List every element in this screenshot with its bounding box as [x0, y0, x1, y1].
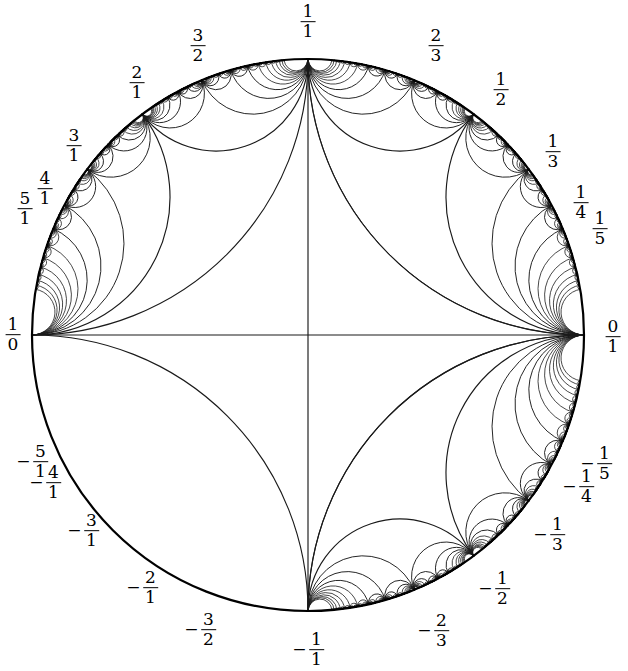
- fraction-numerator: 0: [606, 318, 621, 336]
- fraction-denominator: 1: [143, 588, 158, 607]
- fraction-numerator: 3: [201, 611, 216, 629]
- fraction-denominator: 1: [46, 483, 61, 502]
- fraction-numerator: 1: [301, 3, 316, 21]
- label-neg-3-over-1: −31: [67, 512, 99, 550]
- label-neg-3-over-2: −32: [184, 611, 216, 649]
- geodesic-arc: [529, 335, 584, 441]
- fraction-denominator: 3: [550, 535, 565, 554]
- farey-diagram-canvas: [0, 0, 628, 671]
- fraction: 31: [67, 127, 82, 165]
- fraction: 32: [191, 27, 206, 65]
- minus-sign: −: [184, 621, 198, 638]
- fraction-denominator: 1: [18, 209, 33, 228]
- fraction-denominator: 1: [67, 146, 82, 165]
- fraction-numerator: 1: [494, 71, 509, 89]
- fraction-denominator: 3: [546, 152, 561, 171]
- fraction: 21: [130, 64, 145, 102]
- fraction-numerator: 5: [18, 190, 33, 208]
- fraction-numerator: 4: [38, 170, 53, 188]
- fraction-denominator: 1: [84, 531, 99, 550]
- fraction-denominator: 4: [579, 487, 594, 506]
- minus-sign: −: [126, 579, 140, 596]
- fraction-denominator: 1: [301, 22, 316, 41]
- geodesic-arc: [32, 335, 308, 611]
- geodesic-arc: [469, 519, 508, 556]
- label-1-over-0: 10: [6, 316, 21, 354]
- fraction-denominator: 3: [434, 631, 449, 650]
- fraction-numerator: 3: [67, 127, 82, 145]
- fraction: 23: [429, 27, 444, 65]
- fraction-denominator: 4: [574, 203, 589, 222]
- fraction-denominator: 1: [38, 189, 53, 208]
- fraction-denominator: 5: [593, 229, 608, 248]
- geodesic-arc: [469, 114, 508, 151]
- fraction: 51: [18, 190, 33, 228]
- fraction-numerator: 1: [597, 445, 612, 463]
- minus-sign: −: [292, 641, 306, 658]
- fraction: 32: [201, 611, 216, 649]
- geodesic-arc: [131, 114, 144, 126]
- fraction-numerator: 1: [309, 631, 324, 649]
- label-5-over-1: 51: [18, 190, 33, 228]
- geodesic-arc: [472, 114, 485, 126]
- label-1-over-3: 13: [546, 133, 561, 171]
- geodesic-arc: [529, 229, 584, 335]
- fraction-numerator: 1: [546, 133, 561, 151]
- label-2-over-3: 23: [429, 27, 444, 65]
- fraction: 23: [434, 612, 449, 650]
- fraction: 13: [550, 516, 565, 554]
- fraction: 41: [46, 464, 61, 502]
- fraction-numerator: 3: [191, 27, 206, 45]
- label-neg-1-over-2: −12: [478, 570, 510, 608]
- minus-sign: −: [478, 580, 492, 597]
- geodesic-arc: [308, 556, 414, 611]
- label-2-over-1: 21: [130, 64, 145, 102]
- fraction: 15: [593, 210, 608, 248]
- fraction: 21: [143, 569, 158, 607]
- fraction-denominator: 2: [494, 90, 509, 109]
- geodesic-arc: [202, 59, 308, 114]
- minus-sign: −: [29, 474, 43, 491]
- geodesic-arc: [32, 229, 87, 335]
- fraction-denominator: 0: [6, 335, 21, 354]
- minus-sign: −: [562, 478, 576, 495]
- label-1-over-5: 15: [593, 210, 608, 248]
- geodesic-arc: [308, 59, 414, 114]
- geodesic-arc: [108, 114, 147, 151]
- fraction: 13: [546, 133, 561, 171]
- fraction-numerator: 2: [130, 64, 145, 82]
- farey-diagram-figure: 11322131415110−51−41−31−21−32−11−23−12−1…: [0, 0, 628, 671]
- label-1-over-1: 11: [301, 3, 316, 41]
- fraction-numerator: 4: [46, 464, 61, 482]
- minus-sign: −: [533, 526, 547, 543]
- minus-sign: −: [580, 455, 594, 472]
- fraction: 12: [495, 570, 510, 608]
- fraction-denominator: 2: [495, 589, 510, 608]
- label-4-over-1: 41: [38, 170, 53, 208]
- fraction: 11: [309, 631, 324, 669]
- label-neg-1-over-5: −15: [580, 445, 612, 483]
- fraction-numerator: 1: [495, 570, 510, 588]
- minus-sign: −: [67, 522, 81, 539]
- fraction-numerator: 1: [6, 316, 21, 334]
- label-3-over-2: 32: [191, 27, 206, 65]
- label-neg-4-over-1: −41: [29, 464, 61, 502]
- fraction: 10: [6, 316, 21, 354]
- fraction-denominator: 1: [130, 83, 145, 102]
- fraction-denominator: 2: [201, 630, 216, 649]
- label-neg-2-over-3: −23: [417, 612, 449, 650]
- minus-sign: −: [417, 622, 431, 639]
- fraction-denominator: 1: [309, 650, 324, 669]
- fraction-denominator: 3: [429, 46, 444, 65]
- fraction-numerator: 2: [434, 612, 449, 630]
- fraction-numerator: 2: [429, 27, 444, 45]
- label-1-over-4: 14: [574, 184, 589, 222]
- label-neg-1-over-3: −13: [533, 516, 565, 554]
- fraction-numerator: 3: [84, 512, 99, 530]
- fraction-numerator: 1: [574, 184, 589, 202]
- geodesic-arc-group: [32, 59, 584, 611]
- geodesic-arc: [472, 544, 485, 556]
- fraction: 31: [84, 512, 99, 550]
- fraction-numerator: 5: [33, 443, 48, 461]
- fraction: 14: [574, 184, 589, 222]
